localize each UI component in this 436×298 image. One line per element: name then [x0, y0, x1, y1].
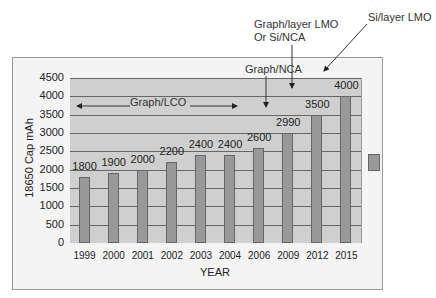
annotation-arrows — [0, 0, 436, 298]
